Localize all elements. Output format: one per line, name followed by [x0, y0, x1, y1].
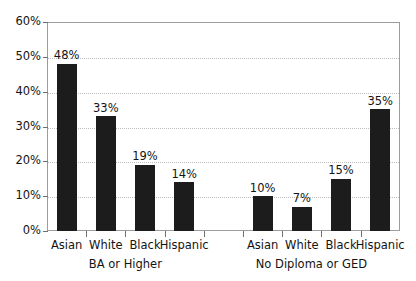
- group-label-ba-or-higher: BA or Higher: [65, 258, 185, 271]
- gridline-50: [48, 58, 399, 59]
- y-axis-tick-0: 0%: [0, 225, 41, 237]
- x-tick-mark-7: [361, 231, 362, 237]
- x-tick-mark-0: [86, 231, 87, 237]
- x-tick-mark-4: [243, 231, 244, 237]
- bar-nodiploma-asian: [253, 196, 273, 231]
- bar-value-ba-hispanic: 14%: [162, 168, 206, 180]
- x-axis-label-nodiploma-hispanic: Hispanic: [354, 239, 406, 252]
- x-tick-mark-6: [321, 231, 322, 237]
- y-tick-mark-40: [43, 92, 48, 93]
- x-axis-label-ba-hispanic: Hispanic: [158, 239, 210, 252]
- bar-value-ba-asian: 48%: [45, 49, 89, 61]
- y-tick-mark-30: [43, 127, 48, 128]
- y-axis-tick-30: 30%: [0, 121, 41, 133]
- gridline-40: [48, 93, 399, 94]
- y-axis-tick-60: 60%: [0, 16, 41, 28]
- y-axis-tick-20: 20%: [0, 155, 41, 167]
- y-axis-tick-10: 10%: [0, 190, 41, 202]
- y-tick-mark-60: [43, 22, 48, 23]
- bar-nodiploma-black: [331, 179, 351, 231]
- bar-ba-black: [135, 165, 155, 231]
- x-tick-mark-5: [282, 231, 283, 237]
- bar-value-ba-black: 19%: [123, 150, 167, 162]
- bar-chart: 60% 50% 40% 30% 20% 10% 0% 48% 33% 19% 1…: [0, 0, 416, 281]
- bar-ba-white: [96, 116, 116, 231]
- bar-value-nodiploma-asian: 10%: [241, 182, 285, 194]
- x-tick-mark-2: [165, 231, 166, 237]
- y-tick-mark-0: [43, 231, 48, 232]
- bar-ba-hispanic: [174, 182, 194, 231]
- bar-nodiploma-hispanic: [370, 109, 390, 231]
- y-axis-tick-40: 40%: [0, 86, 41, 98]
- bar-value-nodiploma-white: 7%: [280, 192, 324, 204]
- bar-nodiploma-white: [292, 207, 312, 231]
- x-tick-mark-3: [204, 231, 205, 237]
- y-axis-tick-50: 50%: [0, 51, 41, 63]
- bar-ba-asian: [57, 64, 77, 231]
- bar-value-ba-white: 33%: [84, 102, 128, 114]
- bar-value-nodiploma-hispanic: 35%: [358, 95, 402, 107]
- y-tick-mark-20: [43, 161, 48, 162]
- y-tick-mark-10: [43, 196, 48, 197]
- x-tick-mark-1: [125, 231, 126, 237]
- bar-value-nodiploma-black: 15%: [319, 164, 363, 176]
- group-label-no-diploma-or-ged: No Diploma or GED: [241, 258, 381, 271]
